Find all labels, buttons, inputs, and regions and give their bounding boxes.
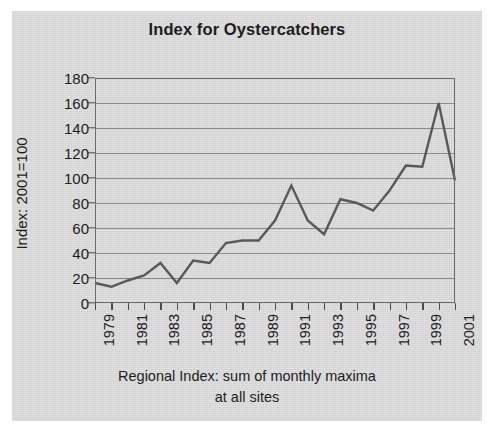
y-tick-label: 180 <box>0 70 89 87</box>
x-tick-label: 1995 <box>363 314 379 346</box>
x-tick-mark <box>160 303 161 310</box>
x-tick-mark <box>226 303 227 310</box>
y-tick-label: 0 <box>0 295 89 312</box>
y-tick-mark <box>88 127 95 128</box>
y-tick-mark <box>88 102 95 103</box>
x-tick-label: 1981 <box>134 314 150 346</box>
x-tick-label: 2001 <box>461 314 477 346</box>
chart-figure: Index for Oystercatchers Index: 2001=100… <box>0 0 494 432</box>
chart-title: Index for Oystercatchers <box>0 20 494 39</box>
x-tick-mark <box>390 303 391 310</box>
x-tick-mark <box>144 303 145 310</box>
x-tick-mark <box>422 303 423 310</box>
y-tick-label: 160 <box>0 95 89 112</box>
x-tick-mark <box>373 303 374 310</box>
x-tick-label: 1999 <box>428 314 444 346</box>
plot-frame <box>95 78 455 303</box>
y-tick-label: 40 <box>0 245 89 262</box>
x-tick-mark <box>128 303 129 310</box>
y-tick-label: 20 <box>0 270 89 287</box>
x-tick-mark <box>275 303 276 310</box>
y-tick-label: 60 <box>0 220 89 237</box>
x-tick-mark <box>210 303 211 310</box>
y-tick-mark <box>88 202 95 203</box>
y-tick-label: 120 <box>0 145 89 162</box>
y-tick-label: 140 <box>0 120 89 137</box>
x-tick-mark <box>340 303 341 310</box>
x-tick-label: 1987 <box>232 314 248 346</box>
x-tick-mark <box>111 303 112 310</box>
y-tick-mark <box>88 152 95 153</box>
x-tick-mark <box>455 303 456 310</box>
x-tick-label: 1991 <box>297 314 313 346</box>
x-tick-label: 1989 <box>265 314 281 346</box>
x-tick-mark <box>193 303 194 310</box>
x-axis-title-line-1: Regional Index: sum of monthly maxima <box>40 366 454 387</box>
x-axis-title: Regional Index: sum of monthly maxima at… <box>40 366 454 408</box>
x-tick-label: 1993 <box>330 314 346 346</box>
x-tick-label: 1983 <box>166 314 182 346</box>
y-tick-label: 80 <box>0 195 89 212</box>
x-tick-mark <box>177 303 178 310</box>
x-tick-mark <box>406 303 407 310</box>
x-tick-label: 1979 <box>101 314 117 346</box>
x-tick-mark <box>242 303 243 310</box>
y-tick-mark <box>88 302 95 303</box>
y-tick-mark <box>88 227 95 228</box>
y-tick-mark <box>88 77 95 78</box>
y-tick-mark <box>88 277 95 278</box>
x-tick-mark <box>291 303 292 310</box>
x-tick-label: 1997 <box>396 314 412 346</box>
x-axis-title-line-2: at all sites <box>40 387 454 408</box>
y-tick-mark <box>88 177 95 178</box>
plot-area: 020406080100120140160180 197919811983198… <box>95 78 455 303</box>
x-tick-mark <box>439 303 440 310</box>
x-tick-mark <box>324 303 325 310</box>
x-tick-mark <box>259 303 260 310</box>
y-tick-label: 100 <box>0 170 89 187</box>
x-tick-mark <box>308 303 309 310</box>
x-tick-mark <box>95 303 96 310</box>
x-tick-mark <box>357 303 358 310</box>
x-tick-label: 1985 <box>199 314 215 346</box>
y-tick-mark <box>88 252 95 253</box>
